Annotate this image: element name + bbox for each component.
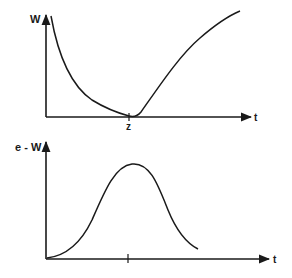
top-plot: W t z [30,11,258,132]
diagram-canvas: W t z e - W t [0,0,292,278]
bottom-x-label: t [273,254,277,265]
top-x-label: t [254,112,258,123]
exp-minus-w-curve [47,164,198,258]
top-tick-label: z [126,121,131,132]
w-curve [51,11,240,117]
bottom-y-label: e - W [15,141,42,153]
bottom-plot: e - W t [15,141,277,265]
top-y-label: W [30,13,41,25]
